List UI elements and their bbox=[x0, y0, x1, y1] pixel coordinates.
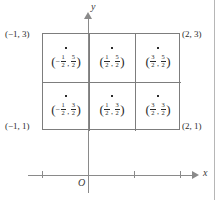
close-paren: ) bbox=[120, 103, 124, 116]
x-sign: − bbox=[55, 106, 60, 114]
sample-point-dot bbox=[65, 95, 67, 97]
corner-label-bottom-left: (−1, 1) bbox=[5, 122, 30, 131]
x-denominator: 2 bbox=[61, 61, 66, 69]
y-fraction: 3 2 bbox=[71, 102, 76, 117]
y-fraction: 3 2 bbox=[115, 102, 120, 117]
x-tick-minus-1 bbox=[42, 171, 43, 178]
page-border-rule bbox=[214, 0, 215, 200]
coordinate-grid-figure: x y O ( − 1 2 , 5 2 ) bbox=[0, 0, 220, 200]
coordinate-separator: , bbox=[67, 60, 69, 68]
x-fraction: 1 2 bbox=[61, 102, 66, 117]
x-tick-1 bbox=[134, 171, 135, 178]
x-numerator: 3 bbox=[150, 102, 155, 109]
coordinate-separator: , bbox=[111, 108, 113, 116]
grid-cell: ( 3 2 , 5 2 ) bbox=[135, 34, 181, 82]
grid-cell: ( − 1 2 , 5 2 ) bbox=[43, 34, 89, 82]
grid-cell: ( 1 2 , 5 2 ) bbox=[89, 34, 135, 82]
x-numerator: 3 bbox=[150, 54, 155, 61]
x-denominator: 2 bbox=[150, 109, 155, 117]
x-numerator: 1 bbox=[61, 54, 66, 61]
x-fraction: 3 2 bbox=[150, 102, 155, 117]
y-denominator: 2 bbox=[115, 61, 120, 69]
open-paren: ( bbox=[99, 103, 103, 116]
y-numerator: 5 bbox=[115, 54, 120, 61]
x-denominator: 2 bbox=[150, 61, 155, 69]
x-denominator: 2 bbox=[104, 61, 109, 69]
cell-coordinate-label: ( 3 2 , 5 2 ) bbox=[145, 54, 170, 69]
sample-point-dot bbox=[157, 47, 159, 49]
y-numerator: 3 bbox=[71, 102, 76, 109]
close-paren: ) bbox=[77, 103, 81, 116]
close-paren: ) bbox=[120, 55, 124, 68]
y-denominator: 2 bbox=[71, 61, 76, 69]
cell-coordinate-label: ( − 1 2 , 3 2 ) bbox=[51, 102, 81, 117]
grid-cell: ( 1 2 , 3 2 ) bbox=[89, 82, 135, 130]
grid-cell: ( 3 2 , 3 2 ) bbox=[135, 82, 181, 130]
x-numerator: 1 bbox=[61, 102, 66, 109]
x-fraction: 1 2 bbox=[104, 54, 109, 69]
cell-coordinate-label: ( 3 2 , 3 2 ) bbox=[145, 102, 170, 117]
corner-label-top-right: (2, 3) bbox=[182, 30, 202, 39]
sample-point-dot bbox=[111, 47, 113, 49]
y-denominator: 2 bbox=[71, 109, 76, 117]
corner-label-top-left: (−1, 3) bbox=[5, 30, 30, 39]
sample-point-dot bbox=[111, 95, 113, 97]
close-paren: ) bbox=[166, 103, 170, 116]
x-axis-line bbox=[28, 175, 194, 176]
open-paren: ( bbox=[145, 55, 149, 68]
sample-point-dot bbox=[157, 95, 159, 97]
coordinate-separator: , bbox=[111, 60, 113, 68]
y-fraction: 5 2 bbox=[71, 54, 76, 69]
corner-label-bottom-right: (2, 1) bbox=[182, 122, 202, 131]
y-fraction: 3 2 bbox=[161, 102, 166, 117]
y-numerator: 5 bbox=[161, 54, 166, 61]
y-numerator: 3 bbox=[161, 102, 166, 109]
cell-coordinate-label: ( 1 2 , 3 2 ) bbox=[99, 102, 124, 117]
close-paren: ) bbox=[166, 55, 170, 68]
coordinate-separator: , bbox=[157, 108, 159, 116]
open-paren: ( bbox=[145, 103, 149, 116]
x-axis-arrow-icon bbox=[192, 171, 199, 179]
x-denominator: 2 bbox=[61, 109, 66, 117]
y-numerator: 3 bbox=[115, 102, 120, 109]
y-axis-label: y bbox=[91, 2, 95, 12]
cell-coordinate-label: ( − 1 2 , 5 2 ) bbox=[51, 54, 81, 69]
coordinate-separator: , bbox=[157, 60, 159, 68]
close-paren: ) bbox=[77, 55, 81, 68]
y-fraction: 5 2 bbox=[115, 54, 120, 69]
x-sign: − bbox=[55, 58, 60, 66]
cell-coordinate-label: ( 1 2 , 5 2 ) bbox=[99, 54, 124, 69]
grid-cell: ( − 1 2 , 3 2 ) bbox=[43, 82, 89, 130]
x-fraction: 3 2 bbox=[150, 54, 155, 69]
y-fraction: 5 2 bbox=[161, 54, 166, 69]
origin-label: O bbox=[78, 178, 85, 188]
x-denominator: 2 bbox=[104, 109, 109, 117]
y-denominator: 2 bbox=[161, 61, 166, 69]
x-fraction: 1 2 bbox=[104, 102, 109, 117]
y-denominator: 2 bbox=[161, 109, 166, 117]
region-rectangle: ( − 1 2 , 5 2 ) ( 1 2 bbox=[42, 33, 180, 130]
x-numerator: 1 bbox=[104, 54, 109, 61]
coordinate-separator: , bbox=[67, 108, 69, 116]
x-tick-2 bbox=[180, 171, 181, 178]
open-paren: ( bbox=[99, 55, 103, 68]
x-numerator: 1 bbox=[104, 102, 109, 109]
x-axis-label: x bbox=[203, 168, 207, 178]
y-denominator: 2 bbox=[115, 109, 120, 117]
x-fraction: 1 2 bbox=[61, 54, 66, 69]
sample-point-dot bbox=[65, 47, 67, 49]
y-axis-arrow-icon bbox=[84, 12, 92, 19]
y-numerator: 5 bbox=[71, 54, 76, 61]
